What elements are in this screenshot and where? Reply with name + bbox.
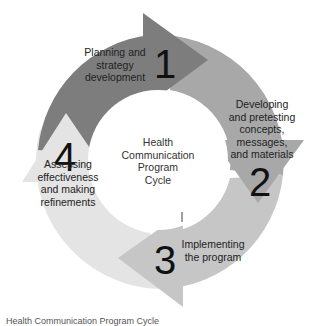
stage-4-line: effectiveness (26, 171, 110, 184)
stage-3-label: Implementing the program (178, 238, 248, 263)
stage-2-line: Developing (222, 98, 302, 111)
stage-2-number: 2 (245, 162, 275, 202)
stage-2-label: Developing and pretesting concepts, mess… (222, 98, 302, 161)
stage-4-line: Assessing (26, 158, 110, 171)
center-label: Health Communication Program Cycle (113, 136, 203, 186)
stage-1-number: 1 (150, 44, 180, 84)
center-line: Program (113, 161, 203, 174)
center-line: Communication (113, 149, 203, 162)
stage-3-number: 3 (150, 240, 180, 280)
stage-2-line: and materials (222, 148, 302, 161)
stage-2-line: and pretesting (222, 111, 302, 124)
stage-3-line: the program (178, 251, 248, 264)
stage-1-line: Planning and (70, 46, 160, 59)
stage-4-label: Assessing effectiveness and making refin… (26, 158, 110, 208)
stage-2-line: messages, (222, 136, 302, 149)
stage-1-line: development (70, 71, 160, 84)
stage-1-line: strategy (70, 59, 160, 72)
stage-2-line: concepts, (222, 123, 302, 136)
stage-4-line: refinements (26, 196, 110, 209)
center-line: Health (113, 136, 203, 149)
center-line: Cycle (113, 174, 203, 187)
stage-3-line: Implementing (178, 238, 248, 251)
figure-caption: Health Communication Program Cycle (6, 316, 159, 326)
stage-4-line: and making (26, 183, 110, 196)
stage-1-label: Planning and strategy development (70, 46, 160, 84)
